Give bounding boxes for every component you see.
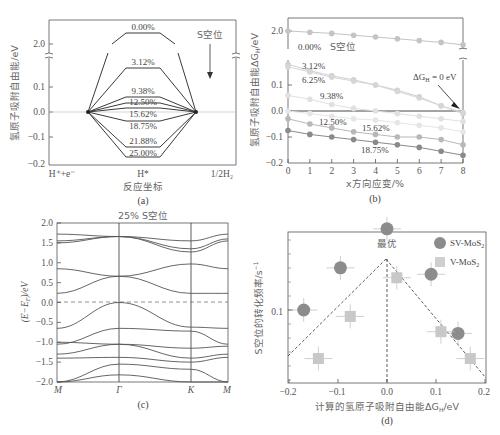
data-point xyxy=(351,32,357,38)
ytick: 1.0 xyxy=(41,258,53,268)
legend: SV-MoS2 V-MoS2 xyxy=(434,237,484,268)
panel-caption: (c) xyxy=(137,399,148,411)
data-point xyxy=(438,149,444,155)
data-point xyxy=(285,116,291,122)
xtick: 4 xyxy=(373,166,378,176)
data-point xyxy=(416,134,422,140)
x-axis-label: x方向应变/% xyxy=(346,178,404,189)
data-point xyxy=(307,111,313,117)
data-point xyxy=(460,42,466,48)
ytick: 1.5 xyxy=(41,238,53,248)
panel-caption: (b) xyxy=(369,193,381,205)
xtick: 6 xyxy=(417,166,422,176)
data-point xyxy=(285,93,291,99)
level-label: 9.38% xyxy=(131,86,155,96)
band-lines xyxy=(57,234,228,382)
series-label: 9.38% xyxy=(320,91,344,101)
y-axis-label: 氢原子吸附自由能/eV xyxy=(9,45,20,141)
data-point xyxy=(285,28,291,34)
data-point xyxy=(373,82,379,88)
xtick: 1 xyxy=(308,166,313,176)
data-point xyxy=(438,116,444,122)
data-point xyxy=(395,111,401,117)
series-label: 3.12% xyxy=(302,61,326,71)
x-axis-label: 反应坐标 xyxy=(123,181,163,192)
arrow-icon xyxy=(438,85,456,105)
xtick: M xyxy=(53,385,63,395)
data-point xyxy=(395,120,401,126)
band-line xyxy=(57,237,228,249)
level-label: 15.62% xyxy=(129,109,157,119)
series-label: 12.50% xyxy=(319,117,347,127)
xtick: H⁺+e⁻ xyxy=(49,169,75,179)
ytick: −1.5 xyxy=(36,357,53,367)
ytick: 0.0 xyxy=(271,106,283,116)
xtick: Γ xyxy=(115,385,122,395)
data-point xyxy=(416,95,422,101)
data-point xyxy=(285,128,291,134)
xtick: 2 xyxy=(329,166,334,176)
ytick: 0.1 xyxy=(271,80,283,90)
delta-g-zero-annotation: ΔGH = 0 eV xyxy=(413,72,457,83)
sv-mos2-point xyxy=(452,327,465,340)
legend-label: SV-MoS2 xyxy=(450,238,484,249)
ytick: 0.0 xyxy=(33,107,45,117)
band-line xyxy=(57,303,228,329)
y-axis-label: S空位的转化频率/s−1 xyxy=(252,261,264,354)
data-point xyxy=(460,152,466,158)
data-point xyxy=(351,129,357,135)
data-point xyxy=(460,110,466,116)
data-point xyxy=(351,106,357,112)
band-line xyxy=(57,344,228,358)
data-point xyxy=(351,137,357,143)
data-point xyxy=(307,29,313,35)
series-label: 18.75% xyxy=(361,145,389,155)
ytick: 0.0 xyxy=(41,298,53,308)
data-point xyxy=(329,134,335,140)
xtick: K xyxy=(187,385,195,395)
circle-marker-icon xyxy=(434,237,446,249)
xtick: 0.1 xyxy=(430,387,442,397)
data-point xyxy=(460,119,466,125)
data-point xyxy=(416,145,422,151)
series-label: 6.25% xyxy=(302,75,326,85)
sv-mos2-point xyxy=(425,268,438,281)
ytick: −0.2 xyxy=(28,159,45,169)
sv-mos2-point xyxy=(334,261,347,274)
x-ticks: 012345678 xyxy=(286,159,466,176)
v-mos2-point xyxy=(313,353,324,364)
xtick: H* xyxy=(137,169,149,179)
panel-caption: (d) xyxy=(381,415,393,427)
ytick: 0.1 xyxy=(271,307,283,317)
panel-caption: (a) xyxy=(137,195,148,207)
ytick: 0.1 xyxy=(33,82,45,92)
band-line xyxy=(57,357,228,362)
xtick: 7 xyxy=(439,166,444,176)
data-point xyxy=(329,31,335,37)
sv-mos2-point xyxy=(381,222,394,235)
s-vacancy-annotation: S空位 xyxy=(330,41,356,52)
v-mos2-point xyxy=(465,353,476,364)
ytick: 2.0 xyxy=(271,26,283,36)
data-point xyxy=(395,89,401,95)
level-label: 3.12% xyxy=(131,57,155,67)
data-point xyxy=(438,125,444,131)
xtick: M xyxy=(222,385,232,395)
band-line xyxy=(57,237,228,253)
s-vacancy-annotation: S空位 xyxy=(197,29,223,40)
level-label: 25.00% xyxy=(129,148,157,158)
v-mos2-point xyxy=(435,326,446,337)
panel-a: 2.0 0.1 0.0 −0.1 −0.2 0.00% 3.12% 9.38% … xyxy=(9,20,240,207)
panel-c: 25% S空位 2.01.51.00.50.0−0.5−1.0−1.5−2.0 … xyxy=(20,210,232,411)
data-point xyxy=(329,74,335,80)
xtick: −0.1 xyxy=(328,387,345,397)
data-point xyxy=(395,134,401,140)
ytick: −1.0 xyxy=(36,337,53,347)
xtick: 8 xyxy=(461,166,466,176)
level-label: 0.00% xyxy=(131,22,155,32)
x-axis-label: 计算的氢原子吸附自由能ΔGH/eV xyxy=(315,401,459,413)
level-label: 21.88% xyxy=(129,136,157,146)
ytick: −2.0 xyxy=(36,377,53,387)
data-point xyxy=(395,36,401,42)
level-label: 12.50% xyxy=(129,97,157,107)
